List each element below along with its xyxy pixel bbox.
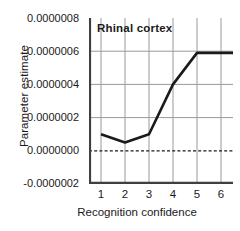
x-tick-label-4: 5 (194, 188, 200, 200)
y-tick-label-2: 0.0000004 (3, 79, 79, 89)
chart-figure: Parameter estimate 0.0000008 0.0000006 0… (0, 0, 240, 231)
y-tick-label-4: 0.0000000 (3, 145, 79, 155)
y-tick-label-3: 0.0000002 (3, 112, 79, 122)
y-tick-label-5: -0.0000002 (3, 178, 79, 188)
x-tick-label-3: 4 (170, 188, 176, 200)
vertical-gridlines (101, 18, 221, 184)
x-axis-tick-labels: 1 2 3 4 5 6 (89, 188, 233, 204)
x-tick-label-2: 3 (146, 188, 152, 200)
y-axis-tick-labels: 0.0000008 0.0000006 0.0000004 0.0000002 … (0, 0, 79, 231)
x-tick-label-5: 6 (218, 188, 224, 200)
y-tick-label-1: 0.0000006 (3, 46, 79, 56)
data-line-rhinal-cortex (101, 53, 233, 143)
x-axis-title: Recognition confidence (0, 206, 240, 218)
chart-svg (89, 18, 233, 184)
plot-area (89, 18, 233, 184)
x-tick-label-1: 2 (122, 188, 128, 200)
x-tick-label-0: 1 (98, 188, 104, 200)
y-tick-label-0: 0.0000008 (3, 13, 79, 23)
chart-title: Rhinal cortex (97, 22, 172, 34)
